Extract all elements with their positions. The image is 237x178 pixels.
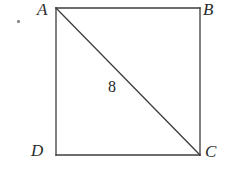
stray-mark-artifact (17, 20, 20, 23)
geometry-figure: A B C D 8 (0, 0, 237, 178)
vertex-label-d: D (31, 142, 43, 159)
vertex-label-c: C (205, 143, 216, 160)
vertex-label-a: A (37, 1, 47, 18)
diagonal-length-label: 8 (108, 79, 116, 95)
vertex-label-b: B (203, 1, 213, 18)
diagonal-AC (56, 8, 200, 155)
